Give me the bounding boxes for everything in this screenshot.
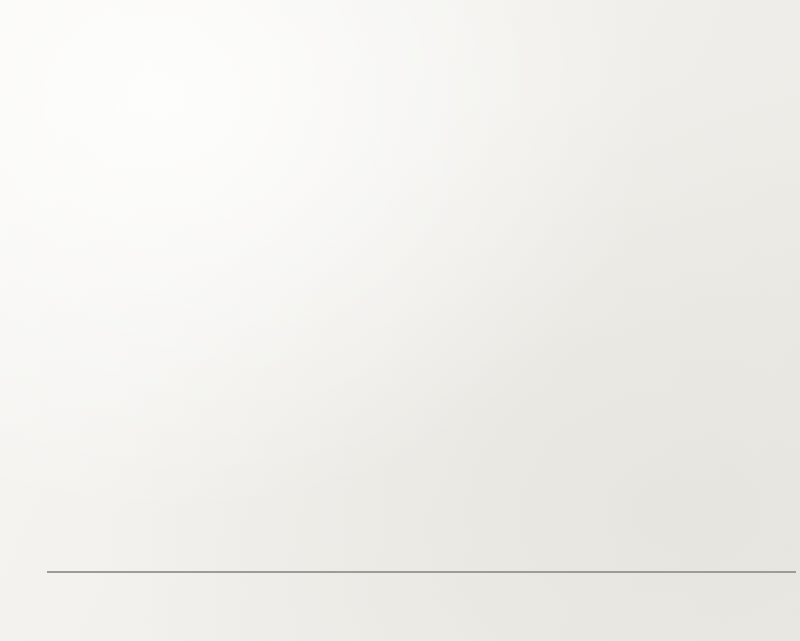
bar-chart — [0, 0, 800, 641]
scanned-chart-page — [0, 0, 800, 641]
x-axis-baseline — [47, 571, 796, 573]
